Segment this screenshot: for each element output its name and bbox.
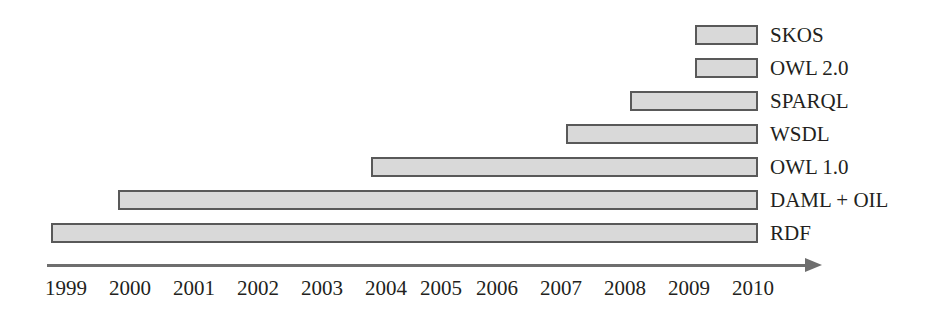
time-axis-line [47,264,813,267]
timeline-bar-owl-1-0[interactable] [371,157,758,177]
axis-tick-1999: 1999 [36,276,96,300]
axis-tick-2004: 2004 [356,276,416,300]
axis-tick-2002: 2002 [228,276,288,300]
bar-label-daml-oil: DAML + OIL [770,190,888,210]
timeline-bar-daml-oil[interactable] [118,190,758,210]
bar-label-rdf: RDF [770,223,811,243]
axis-tick-2001: 2001 [164,276,224,300]
timeline-bar-owl-2-0[interactable] [695,58,758,78]
bar-label-wsdl: WSDL [770,124,830,144]
bar-label-owl-2-0: OWL 2.0 [770,58,849,78]
bar-label-skos: SKOS [770,25,824,45]
timeline-chart: SKOS OWL 2.0 SPARQL WSDL OWL 1.0 DAML + … [0,0,930,324]
timeline-bar-wsdl[interactable] [566,124,758,144]
bar-label-sparql: SPARQL [770,91,849,111]
axis-tick-2007: 2007 [531,276,591,300]
axis-tick-2005: 2005 [411,276,471,300]
timeline-bar-sparql[interactable] [630,91,758,111]
axis-tick-2010: 2010 [723,276,783,300]
axis-tick-2000: 2000 [100,276,160,300]
axis-tick-2008: 2008 [595,276,655,300]
timeline-bar-skos[interactable] [695,25,758,45]
time-axis-arrow-icon [805,258,822,272]
axis-tick-2009: 2009 [659,276,719,300]
timeline-bar-rdf[interactable] [51,223,758,243]
axis-tick-2003: 2003 [292,276,352,300]
axis-tick-2006: 2006 [467,276,527,300]
bar-label-owl-1-0: OWL 1.0 [770,157,849,177]
